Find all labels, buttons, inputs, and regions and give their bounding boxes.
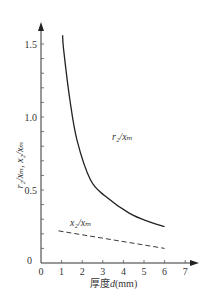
x-tick-label: 7 <box>183 266 188 277</box>
axes <box>38 22 199 266</box>
x-tick-label: 4 <box>121 266 126 277</box>
annotation-x2-xm: x₂/xₘ <box>69 217 91 228</box>
chart: 00.51.01.5 01234567 r₂/xₘ x₂/xₘ 厚度d(mm) … <box>0 0 207 299</box>
x-axis-label: 厚度d(mm) <box>90 277 137 290</box>
y-axis-label: r₂/xₘ, x₂/xₘ <box>14 142 25 189</box>
y-axis-arrow-icon <box>38 22 44 31</box>
x-tick-label: 3 <box>100 266 105 277</box>
x-tick-label: 0 <box>39 266 44 277</box>
y-tick-label: 1.5 <box>25 39 38 50</box>
y-tick-label: 1.0 <box>25 112 38 123</box>
x-tick-label: 1 <box>59 266 64 277</box>
y-tick-label: 0.5 <box>25 185 38 196</box>
y-tick-label: 0 <box>27 255 32 266</box>
annotation-r2-xm: r₂/xₘ <box>112 131 133 142</box>
series-line-x2-xm <box>59 231 165 249</box>
x-axis-arrow-icon <box>190 260 199 266</box>
x-tick-label: 2 <box>80 266 85 277</box>
x-tick-label: 5 <box>142 266 147 277</box>
x-tick-label: 6 <box>162 266 167 277</box>
